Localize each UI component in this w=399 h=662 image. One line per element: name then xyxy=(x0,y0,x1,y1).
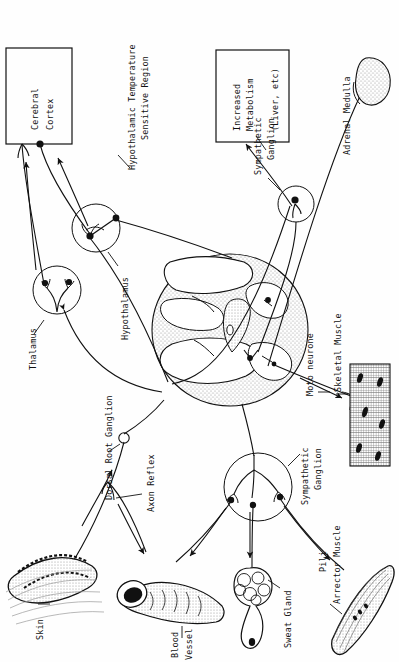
sympathetic-ganglion-lower-label-line1: Sympathetic xyxy=(300,447,311,505)
dorsal-root-ganglion-label: Dorsal Root Ganglion xyxy=(104,395,115,500)
cerebral-cortex-label-line2: Cortex xyxy=(45,99,56,130)
increased-metabolism-label-line1: Increased xyxy=(232,84,243,131)
sweat-gland-label: Sweat Gland xyxy=(283,590,294,648)
sympathetic-ganglion-lower xyxy=(224,453,292,521)
dorsal-root-afferent xyxy=(124,400,164,434)
cerebral-cortex-label-line1: Cerebral xyxy=(30,88,41,130)
sympathetic-ganglion-upper-label-line2: Ganglion xyxy=(266,118,277,160)
leader-sympathetic-lower xyxy=(288,454,300,466)
blood-vessel xyxy=(113,577,224,624)
sympathetic-ganglion-upper xyxy=(278,186,314,222)
hypothalamus-to-spinal-tract xyxy=(116,220,232,258)
thalamus-to-spinal-afferent xyxy=(64,310,162,392)
diagram-canvas: Cerebral Cortex Increased Metabolism (Li… xyxy=(0,0,399,662)
hypothalamic-temperature-label-line2: Sensitive Region xyxy=(140,56,151,140)
thalamus-label: Thalamus xyxy=(28,328,39,370)
adrenal-medulla-label: Adrenal Medulla xyxy=(342,76,353,155)
ganglion-to-blood-vessel xyxy=(176,503,230,562)
blood-vessel-arrow xyxy=(190,508,226,556)
sweat-gland xyxy=(234,568,272,649)
thalamus-nucleus xyxy=(33,266,81,314)
sympathetic-ganglion-upper-label-line1: Sympathetic xyxy=(253,117,264,175)
ganglion-to-sweat-gland xyxy=(252,508,253,568)
cortex-sensory-input xyxy=(22,144,44,284)
axon-reflex-arrow xyxy=(118,504,144,554)
blood-vessel-label-line2: Vessel xyxy=(184,629,195,660)
blood-vessel-label-line1: Blood xyxy=(170,632,181,658)
cortex-to-hypothalamus-axon xyxy=(40,144,90,234)
skeletal-muscle-label: Skeletal Muscle xyxy=(333,313,344,392)
skin-label: Skin xyxy=(35,619,46,640)
leader-pili xyxy=(330,604,342,614)
pili-arrector-muscle-label-line2: Arrector Muscle xyxy=(332,525,343,604)
sympathetic-ganglion-lower-label-line2: Ganglion xyxy=(313,448,324,490)
skeletal-muscle-fiber xyxy=(350,364,390,466)
leader-axon-reflex xyxy=(116,494,142,498)
pili-label-line1: Pili xyxy=(318,551,329,572)
hypothalamic-temperature-label-line1: Hypothalamic Temperature xyxy=(127,44,138,170)
dorsal-root-ganglion-node xyxy=(119,433,129,443)
spinal-to-lower-ganglion xyxy=(242,404,254,456)
leader-hypothalamus xyxy=(108,252,118,266)
hypothalamus-to-cortex-arrow xyxy=(58,158,88,226)
adrenal-medulla-gland xyxy=(353,58,390,105)
hypothalamus-label: Hypothalamus xyxy=(120,277,131,340)
thalamus-to-cortex-arrow xyxy=(26,162,36,270)
skin-to-dorsal-root xyxy=(74,442,124,560)
axon-reflex-label: Axon Reflex xyxy=(146,454,157,512)
moto-neurone-label: Moto neurone xyxy=(305,333,316,396)
skin-section xyxy=(6,555,104,624)
hypothalamus-nucleus xyxy=(72,204,120,252)
